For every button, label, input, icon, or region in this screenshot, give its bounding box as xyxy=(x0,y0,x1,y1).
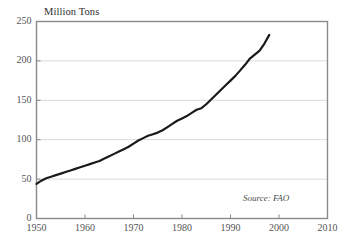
chart-canvas xyxy=(0,0,346,247)
x-tick-label: 1980 xyxy=(164,222,200,233)
x-tick-label: 1950 xyxy=(19,222,55,233)
tick-marks-group xyxy=(37,22,328,219)
source-annotation: Source: FAO xyxy=(243,193,289,203)
data-line-series-world-production xyxy=(37,35,270,184)
y-tick-label: 100 xyxy=(4,133,32,144)
x-tick-label: 1960 xyxy=(67,222,103,233)
x-tick-label: 1990 xyxy=(213,222,249,233)
y-tick-label: 250 xyxy=(4,15,32,26)
y-axis-title: Million Tons xyxy=(44,6,99,17)
x-tick-label: 1970 xyxy=(116,222,152,233)
x-tick-label: 2000 xyxy=(261,222,297,233)
plot-frame xyxy=(37,22,328,219)
x-tick-label: 2010 xyxy=(310,222,346,233)
y-tick-label: 50 xyxy=(4,173,32,184)
y-tick-label: 200 xyxy=(4,54,32,65)
chart-figure: Million Tons Source: FAO 050100150200250… xyxy=(0,0,346,247)
y-tick-label: 150 xyxy=(4,94,32,105)
gridlines-group xyxy=(37,22,328,180)
